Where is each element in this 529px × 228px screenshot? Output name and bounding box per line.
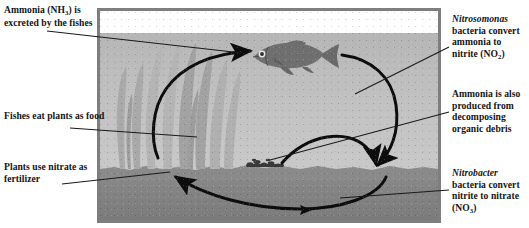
aquarium-tank xyxy=(97,8,441,223)
label-nitrosomonas-genus: Nitrosomonas xyxy=(452,13,508,24)
label-nitrobacter-text-1: bacteria convert nitrite to nitrate (NO xyxy=(452,179,520,213)
label-plants-use-nitrate-text: Plants use nitrate as fertilizer xyxy=(4,161,87,184)
nitrogen-cycle-diagram: Ammonia (NH3) is excreted by the fishes … xyxy=(0,0,529,228)
label-nitrobacter: Nitrobacter bacteria convert nitrite to … xyxy=(452,167,529,214)
label-nitrobacter-genus: Nitrobacter xyxy=(452,167,498,178)
label-nitrosomonas-text-2: ) xyxy=(502,48,505,59)
label-fishes-eat-plants: Fishes eat plants as food xyxy=(4,110,112,122)
label-plants-use-nitrate: Plants use nitrate as fertilizer xyxy=(4,161,104,184)
label-ammonia-sub: 3 xyxy=(65,9,68,16)
label-fishes-eat-plants-text: Fishes eat plants as food xyxy=(4,110,104,121)
arrow-plants-to-fish xyxy=(153,51,250,158)
label-nitrobacter-sub: 3 xyxy=(470,207,473,214)
arrow-debris-to-gravel xyxy=(282,136,376,164)
label-nitrosomonas: Nitrosomonas bacteria convert ammonia to… xyxy=(452,13,529,60)
label-ammonia-excreted: Ammonia (NH3) is excreted by the fishes xyxy=(4,4,112,28)
label-nitrobacter-text-2: ) xyxy=(473,202,476,213)
label-ammonia-decomposing: Ammonia is also produced from decomposin… xyxy=(452,88,529,134)
label-nitrosomonas-text-1: bacteria convert ammonia to nitrite (NO xyxy=(452,25,520,59)
nitrogen-cycle-arrows xyxy=(100,11,438,220)
label-nitrosomonas-sub: 2 xyxy=(498,53,501,60)
label-ammonia-decomposing-text: Ammonia is also produced from decomposin… xyxy=(452,88,520,134)
label-ammonia-text-1: Ammonia (NH xyxy=(4,4,65,15)
arrow-gravel-to-plants xyxy=(176,177,386,209)
